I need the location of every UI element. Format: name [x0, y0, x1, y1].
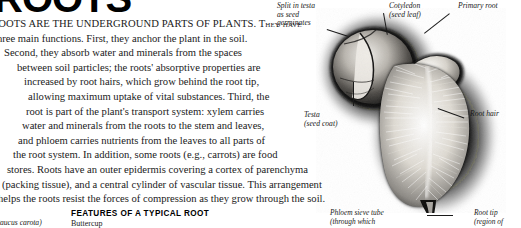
label-split-in-testa: Split in testa as seed germinates — [277, 2, 315, 28]
body-line: Second, they absorb water and minerals f… — [4, 46, 330, 61]
body-line: stores. Roots have an outer epidermis co… — [7, 163, 330, 178]
bottom-left-italic-caption: (Daucus carota) — [0, 218, 42, 227]
features-caption-title: FEATURES OF A TYPICAL ROOT — [71, 209, 209, 218]
body-line: increased by root hairs, which grow behi… — [24, 75, 330, 90]
body-text-column: ROOTS ARE THE UNDERGROUND PARTS OF PLANT… — [0, 17, 330, 207]
label-root-tip: Root tip (region of — [474, 209, 503, 226]
body-line: three main functions. First, they anchor… — [0, 32, 330, 47]
body-line: root is part of the plant's transport sy… — [26, 105, 330, 120]
body-line: the root system. In addition, some roots… — [13, 148, 330, 163]
label-phloem-sieve-tube: Phloem sieve tube (through which — [330, 209, 384, 226]
page-title: ROOTS — [0, 0, 131, 18]
body-line: between soil particles; the roots' absor… — [17, 61, 330, 76]
leader-line-root-tip — [427, 215, 453, 216]
label-testa: Testa (seed coat) — [304, 111, 338, 128]
leader-line-testa — [353, 82, 354, 106]
features-caption-subtitle: Buttercup — [71, 219, 103, 228]
body-line: and phloem carries nutrients from the le… — [18, 134, 330, 149]
label-root-hair: Root hair — [470, 110, 499, 119]
label-primary-root: Primary root — [458, 2, 498, 11]
body-line: water and minerals from the roots to the… — [22, 119, 330, 134]
label-cotyledon: Cotyledon (seed leaf) — [389, 2, 421, 19]
body-line: (packing tissue), and a central cylinder… — [2, 178, 330, 193]
body-line: allowing maximum uptake of vital substan… — [28, 90, 330, 105]
body-line: helps the roots resist the forces of com… — [0, 192, 330, 207]
document-page: ROOTS ROOTS ARE THE UNDERGROUND PARTS OF… — [0, 0, 521, 228]
